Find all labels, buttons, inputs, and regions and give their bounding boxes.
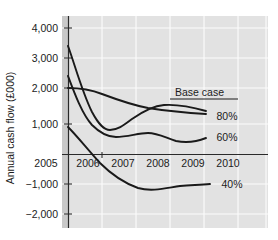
series-label-80: 80%	[216, 110, 237, 122]
plot-area-background	[62, 16, 268, 228]
y-tick-label-4000: 4,000	[32, 22, 58, 34]
x-tick-label-2008: 2008	[146, 157, 170, 169]
y-tick-label-1000: 1,000	[32, 118, 58, 130]
y-axis-title: Annual cash flow (£000)	[4, 72, 16, 185]
chart-canvas: 4,000 3,000 2,000 1,000 −1,000 −2,000 20…	[0, 0, 278, 240]
y-tick-label-minus-2000: −2,000	[26, 208, 59, 220]
y-tick-label-3000: 3,000	[32, 52, 58, 64]
x-tick-label-2010: 2010	[216, 157, 240, 169]
cash-flow-chart: 4,000 3,000 2,000 1,000 −1,000 −2,000 20…	[0, 0, 278, 240]
x-tick-label-2005: 2005	[34, 157, 58, 169]
series-label-base-case: Base case	[175, 86, 224, 98]
y-tick-label-minus-1000: −1,000	[26, 178, 59, 190]
y-tick-label-2000: 2,000	[32, 82, 58, 94]
x-tick-label-2009: 2009	[181, 157, 205, 169]
series-label-40: 40%	[221, 178, 242, 190]
x-tick-label-2007: 2007	[111, 157, 135, 169]
plot-left-band	[62, 16, 68, 228]
series-label-60: 60%	[216, 131, 237, 143]
